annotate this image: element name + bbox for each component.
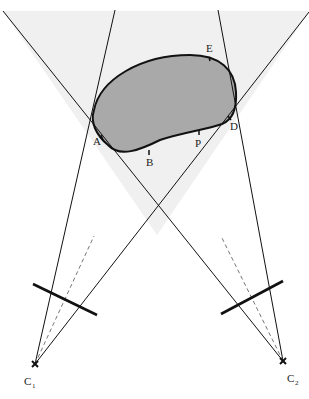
label-a: A	[93, 135, 101, 147]
label-p: P	[195, 137, 201, 149]
label-b: B	[146, 156, 153, 168]
label-d: D	[230, 120, 238, 132]
label-c2-subscript: 2	[295, 379, 299, 387]
label-c2: C	[287, 372, 294, 384]
c1-image-plane	[33, 284, 97, 315]
tick-e	[209, 57, 210, 61]
stereo-visual-hull-diagram: A B P D E C 1 C 2	[0, 0, 309, 399]
label-e: E	[206, 42, 213, 54]
label-c1: C	[24, 375, 31, 387]
label-c1-subscript: 1	[32, 382, 36, 390]
